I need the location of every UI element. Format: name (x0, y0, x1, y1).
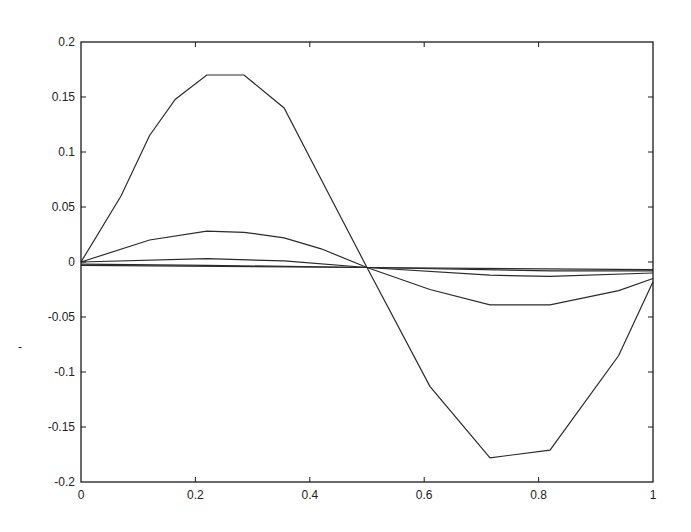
y-tick-label: 0 (68, 255, 75, 269)
y-axis: 0.20.150.10.050-0.05-0.1-0.15-0.2 (48, 35, 653, 489)
plot-frame (81, 42, 653, 482)
x-tick-label: 0.2 (187, 488, 204, 502)
x-tick-label: 0.8 (530, 488, 547, 502)
y-tick-label: -0.05 (48, 310, 76, 324)
x-tick-label: 0.4 (301, 488, 318, 502)
y-tick-label: 0.15 (52, 90, 76, 104)
x-tick-label: 0.6 (416, 488, 433, 502)
y-tick-label: -0.15 (48, 420, 76, 434)
x-axis: 00.20.40.60.81 (78, 42, 657, 502)
stray-mark: - (18, 340, 22, 354)
y-tick-label: 0.1 (58, 145, 75, 159)
y-tick-label: -0.2 (54, 475, 75, 489)
y-tick-label: -0.1 (54, 365, 75, 379)
y-tick-label: 0.05 (52, 200, 76, 214)
x-tick-label: 1 (650, 488, 657, 502)
plot-series (81, 75, 653, 458)
y-tick-label: 0.2 (58, 35, 75, 49)
line-chart: 0.20.150.10.050-0.05-0.1-0.15-0.2 00.20.… (0, 0, 691, 532)
series-line-5 (81, 265, 653, 269)
x-tick-label: 0 (78, 488, 85, 502)
